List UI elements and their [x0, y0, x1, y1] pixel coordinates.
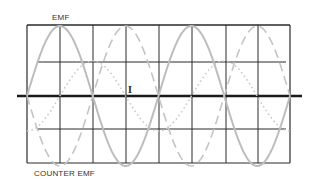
counter-emf-label: COUNTER EMF: [34, 169, 95, 178]
current-label: I: [128, 84, 132, 95]
waveform-diagram: [0, 0, 311, 182]
emf-label: EMF: [52, 13, 70, 22]
